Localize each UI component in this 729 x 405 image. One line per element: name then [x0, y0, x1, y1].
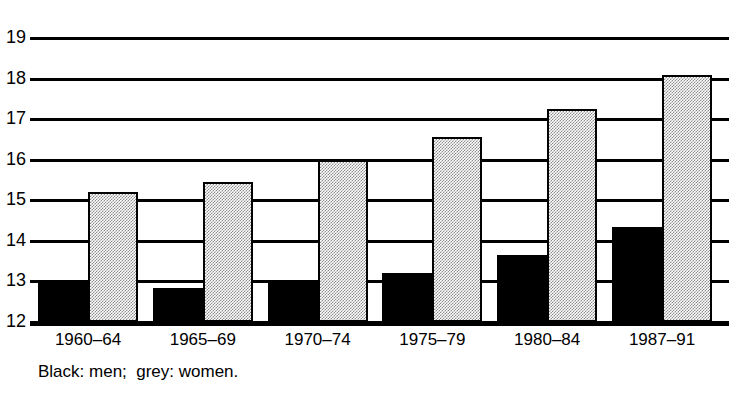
x-tick-label-1980-84: 1980–84 — [492, 330, 602, 349]
y-tick-label-19: 19 — [0, 28, 26, 46]
y-tick-label-12: 12 — [0, 312, 26, 330]
bar-women-1980-84 — [547, 109, 597, 322]
x-tick-label-1965-69: 1965–69 — [148, 330, 258, 349]
plot-area: 1918171615141312 1960–641965–691970–7419… — [0, 0, 729, 405]
bar-women-1970-74 — [318, 160, 368, 322]
bar-men-1965-69 — [153, 288, 203, 322]
bar-men-1980-84 — [497, 255, 547, 322]
x-tick-label-1987-91: 1987–91 — [607, 330, 717, 349]
x-tick-label-1970-74: 1970–74 — [263, 330, 373, 349]
bar-women-1987-91 — [662, 75, 712, 322]
y-tick-label-16: 16 — [0, 150, 26, 168]
x-tick-label-1960-64: 1960–64 — [33, 330, 143, 349]
gridline-16 — [30, 159, 729, 162]
gridline-18 — [30, 78, 729, 81]
y-tick-label-15: 15 — [0, 190, 26, 208]
bar-chart: 1918171615141312 1960–641965–691970–7419… — [0, 0, 729, 405]
x-axis-line — [30, 322, 729, 326]
bar-women-1960-64 — [88, 192, 138, 322]
gridline-19 — [30, 37, 729, 40]
bar-women-1965-69 — [203, 182, 253, 322]
legend-caption: Black: men; grey: women. — [38, 362, 238, 382]
y-tick-label-14: 14 — [0, 231, 26, 249]
y-tick-label-13: 13 — [0, 271, 26, 289]
x-tick-label-1975-79: 1975–79 — [377, 330, 487, 349]
bar-women-1975-79 — [432, 137, 482, 322]
bar-men-1970-74 — [268, 281, 318, 322]
bar-men-1975-79 — [382, 273, 432, 322]
bar-men-1987-91 — [612, 227, 662, 322]
y-tick-label-17: 17 — [0, 109, 26, 127]
y-tick-label-18: 18 — [0, 69, 26, 87]
bar-men-1960-64 — [38, 281, 88, 322]
gridline-17 — [30, 118, 729, 121]
